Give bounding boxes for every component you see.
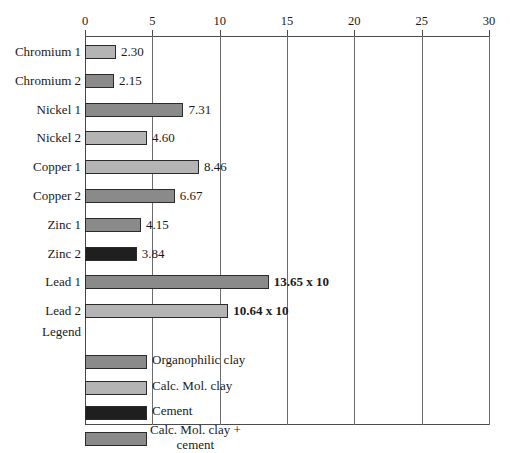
bar — [85, 103, 183, 117]
category-label: Copper 1 — [33, 159, 81, 175]
bar — [85, 45, 116, 59]
x-tick-label: 0 — [82, 14, 88, 29]
legend-swatch — [85, 406, 147, 420]
bar-value-label: 13.65 x 10 — [274, 274, 329, 290]
x-tick-label: 5 — [149, 14, 155, 29]
tick-mark-25 — [422, 30, 423, 36]
bar-value-label: 3.84 — [142, 246, 165, 262]
x-tick-label: 15 — [281, 14, 294, 29]
x-tick-label: 25 — [415, 14, 428, 29]
legend-label: Cement — [152, 403, 192, 418]
category-label: Zinc 2 — [47, 246, 81, 262]
x-tick-label: 30 — [483, 14, 496, 29]
bar — [85, 189, 175, 203]
category-label: Copper 2 — [33, 188, 81, 204]
bar-value-label: 8.46 — [204, 159, 227, 175]
bar-value-label: 6.67 — [180, 188, 203, 204]
bar-row: Lead 210.64 x 10 — [0, 297, 510, 326]
category-label: Chromium 1 — [15, 44, 81, 60]
category-label: Nickel 1 — [37, 102, 81, 118]
bar-row: Chromium 12.30 — [0, 38, 510, 67]
tick-mark-5 — [152, 30, 153, 36]
bar-value-label: 10.64 x 10 — [233, 303, 288, 319]
legend-label: Calc. Mol. clay — [152, 378, 232, 393]
legend-item: Calc. Mol. clay — [0, 377, 510, 403]
bar-value-label: 4.15 — [146, 217, 169, 233]
bar-row: Zinc 14.15 — [0, 211, 510, 240]
bar-row: Lead 113.65 x 10 — [0, 268, 510, 297]
bar — [85, 160, 199, 174]
category-label: Lead 1 — [45, 274, 81, 290]
category-label: Lead 2 — [45, 303, 81, 319]
bar-value-label: 4.60 — [152, 130, 175, 146]
tick-mark-10 — [220, 30, 221, 36]
bar-row: Copper 18.46 — [0, 153, 510, 182]
legend-item: Calc. Mol. clay + cement — [0, 428, 510, 453]
legend-swatch — [85, 355, 147, 369]
bar-value-label: 2.15 — [119, 73, 142, 89]
legend-swatch — [85, 381, 147, 395]
legend-label: Calc. Mol. clay + cement — [150, 422, 241, 452]
category-label: Nickel 2 — [37, 130, 81, 146]
bar-row: Chromium 22.15 — [0, 67, 510, 96]
category-label: Chromium 2 — [15, 73, 81, 89]
bar — [85, 275, 269, 289]
bar — [85, 218, 141, 232]
legend-item: Organophilic clay — [0, 351, 510, 377]
bar-value-label: 7.31 — [188, 102, 211, 118]
bar — [85, 247, 137, 261]
bar-row: Nickel 17.31 — [0, 96, 510, 125]
bar-row: Nickel 24.60 — [0, 124, 510, 153]
bar — [85, 304, 228, 318]
x-tick-label: 10 — [213, 14, 226, 29]
legend-title: Legend — [42, 324, 81, 340]
bar-value-label: 2.30 — [121, 44, 144, 60]
tick-mark-20 — [354, 30, 355, 36]
x-tick-label: 20 — [348, 14, 361, 29]
category-label: Zinc 1 — [47, 217, 81, 233]
tick-mark-30 — [489, 30, 490, 36]
legend-item: Cement — [0, 402, 510, 428]
bar — [85, 74, 114, 88]
bar — [85, 131, 147, 145]
bar-row: Copper 26.67 — [0, 182, 510, 211]
legend-swatch — [85, 432, 147, 446]
tick-mark-15 — [287, 30, 288, 36]
tick-mark-0 — [85, 30, 86, 36]
legend-label: Organophilic clay — [152, 352, 245, 367]
bar-row: Zinc 23.84 — [0, 240, 510, 269]
